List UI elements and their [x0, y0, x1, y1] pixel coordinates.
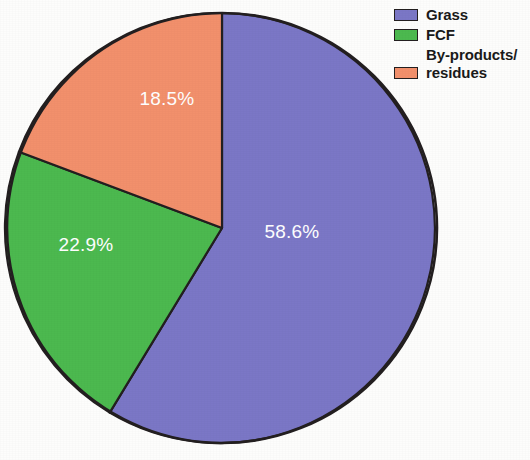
pie-label-grass: 58.6%: [265, 221, 320, 242]
pie-label-by-products-residues: 18.5%: [140, 88, 195, 109]
legend-swatch-grass: [394, 9, 418, 21]
legend-item-by-products-residues[interactable]: By-products/ residues: [394, 46, 530, 82]
legend-swatch-fcf: [394, 29, 418, 41]
legend-label-grass: Grass: [426, 6, 468, 24]
chart-legend: Grass FCF By-products/ residues: [394, 6, 530, 83]
legend-item-grass[interactable]: Grass: [394, 6, 530, 25]
legend-swatch-by-products-residues: [394, 67, 418, 79]
pie-label-fcf: 22.9%: [59, 234, 114, 255]
legend-item-fcf[interactable]: FCF: [394, 26, 530, 45]
legend-label-by-products-residues: By-products/ residues: [426, 46, 517, 82]
pie-chart-figure: 58.6% 22.9% 18.5% Grass FCF By-products/…: [0, 0, 530, 460]
legend-label-fcf: FCF: [426, 26, 455, 44]
